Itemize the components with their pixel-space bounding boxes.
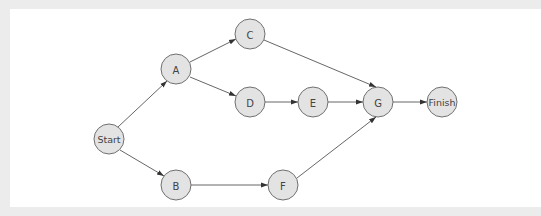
node-finish: Finish <box>427 87 457 117</box>
node-c: C <box>235 19 265 49</box>
node-label: Finish <box>428 97 455 108</box>
edge-start-a <box>118 81 167 127</box>
node-g: G <box>363 87 393 117</box>
node-label: Start <box>97 134 120 145</box>
node-label: C <box>247 30 254 41</box>
node-start: Start <box>94 124 124 154</box>
edge-a-d <box>190 77 236 96</box>
edge-f-g <box>297 117 376 178</box>
edge-c-g <box>264 40 376 87</box>
node-label: A <box>173 65 180 76</box>
edge-a-c <box>190 39 236 62</box>
edge-start-b <box>120 150 164 176</box>
node-b: B <box>161 170 191 200</box>
node-f: F <box>268 170 298 200</box>
node-d: D <box>235 87 265 117</box>
node-e: E <box>298 87 328 117</box>
node-label: F <box>280 181 286 192</box>
network-diagram: Start A B C D E F G Finish <box>0 0 541 216</box>
node-label: E <box>310 98 316 109</box>
node-label: B <box>173 181 180 192</box>
node-a: A <box>161 54 191 84</box>
node-label: D <box>246 98 254 109</box>
node-label: G <box>374 98 382 109</box>
